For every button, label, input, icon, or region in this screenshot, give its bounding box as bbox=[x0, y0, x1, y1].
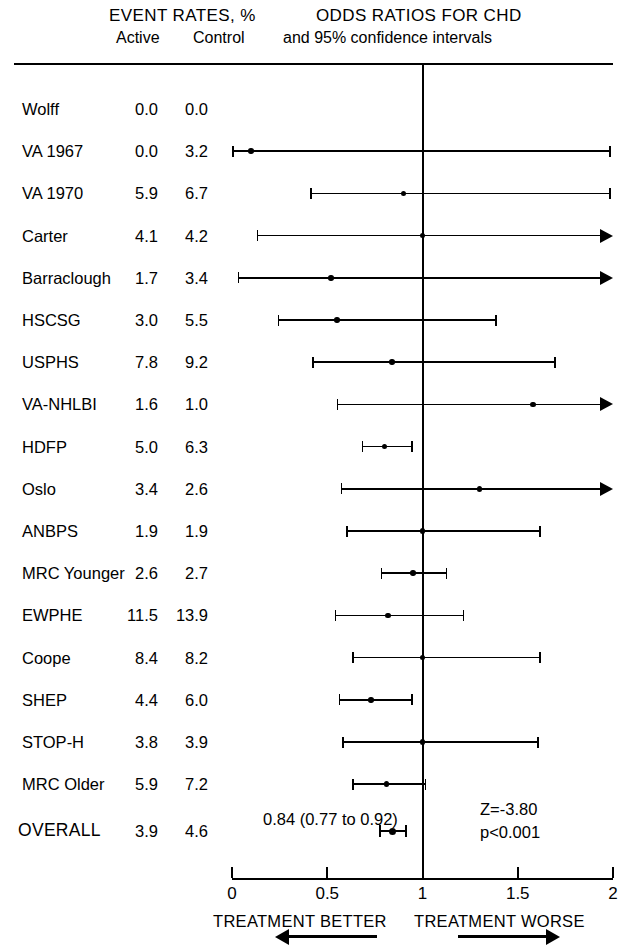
treatment-better-label: TREATMENT BETTER bbox=[213, 912, 387, 931]
forest-plot-figure: EVENT RATES, % ODDS RATIOS FOR CHD Activ… bbox=[0, 0, 624, 945]
x-axis-tick-label: 1.5 bbox=[488, 884, 548, 904]
x-axis-tick bbox=[517, 867, 519, 878]
right-arrow-icon bbox=[546, 929, 560, 945]
x-axis-tick bbox=[326, 867, 328, 878]
worse-direction-line bbox=[458, 935, 548, 938]
x-axis-tick-label: 0.5 bbox=[297, 884, 357, 904]
x-axis-line bbox=[232, 878, 613, 880]
left-arrow-icon bbox=[275, 929, 289, 945]
x-axis-tick-label: 1 bbox=[393, 884, 453, 904]
x-axis-tick-label: 2 bbox=[583, 884, 624, 904]
x-axis-tick-label: 0 bbox=[202, 884, 262, 904]
better-direction-line bbox=[287, 935, 377, 938]
x-axis-tick bbox=[231, 867, 233, 878]
x-axis-tick bbox=[612, 867, 614, 878]
x-axis-tick bbox=[422, 867, 424, 878]
axis-layer: 00.511.52 bbox=[0, 0, 624, 945]
